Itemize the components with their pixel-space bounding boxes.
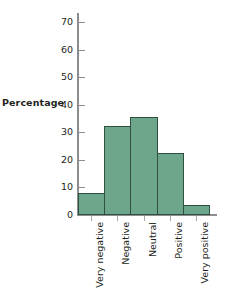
y-axis-tick-label-text: 50 <box>55 72 73 82</box>
bar <box>104 126 131 215</box>
y-axis-tick-label-text: 20 <box>55 155 73 165</box>
x-axis-tick-label: Very positive <box>200 222 210 283</box>
y-axis-tick-label-text: 60 <box>55 45 73 55</box>
bar <box>183 205 210 215</box>
y-axis-title: Percentage <box>2 97 60 108</box>
x-axis-tick-label: Neutral <box>148 222 158 257</box>
y-axis-tick-label-text: 0 <box>55 210 73 220</box>
y-axis-tick-label: 10 <box>55 182 73 192</box>
y-axis-tick-label: 30 <box>55 127 73 137</box>
bar <box>78 193 105 215</box>
y-axis-tick-label: 60 <box>55 45 73 55</box>
x-axis-tick <box>196 216 197 221</box>
x-axis-tick-label: Very negative <box>95 222 105 288</box>
x-axis-tick <box>91 216 92 221</box>
y-axis-tick-label-text: 40 <box>55 100 73 110</box>
y-axis-tick-label-text: 70 <box>55 17 73 27</box>
x-axis-tick <box>170 216 171 221</box>
y-axis-tick-label: 20 <box>55 155 73 165</box>
bar <box>157 153 184 215</box>
y-axis-tick <box>79 215 85 216</box>
bar <box>130 117 157 215</box>
x-axis-tick-label: Positive <box>174 222 184 259</box>
x-axis-tick <box>117 216 118 221</box>
x-axis-tick-label: Negative <box>121 222 131 265</box>
y-axis-tick-label: 40 <box>55 100 73 110</box>
y-axis-tick-label-text: 10 <box>55 182 73 192</box>
y-axis-tick-label: 0 <box>55 210 73 220</box>
y-axis-tick-label: 50 <box>55 72 73 82</box>
y-axis-tick-label-text: 30 <box>55 127 73 137</box>
y-axis-tick-label: 70 <box>55 17 73 27</box>
x-axis-tick <box>144 216 145 221</box>
bar-series <box>78 14 209 215</box>
